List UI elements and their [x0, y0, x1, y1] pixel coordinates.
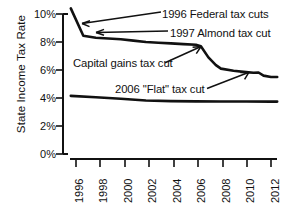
x-axis	[70, 159, 277, 167]
leader-1996-federal	[82, 12, 161, 27]
annotation-leaders	[82, 12, 249, 89]
x-axis-ticks	[76, 159, 271, 167]
chart-container: State Income Tax Rate 10% 8% 6% 4% 2% 0%…	[0, 0, 293, 212]
leader-1997-almond	[96, 29, 168, 35]
series-flat-tax-rate	[71, 96, 277, 102]
leader-capital-gains	[165, 47, 201, 63]
y-axis-ticks	[56, 14, 63, 154]
series-top-tax-rate	[71, 8, 277, 77]
chart-svg	[0, 0, 293, 212]
leader-flat-tax	[207, 72, 249, 88]
y-axis	[56, 14, 68, 154]
